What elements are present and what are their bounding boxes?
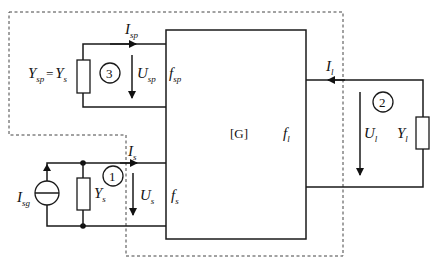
block-label: [G] (230, 126, 248, 141)
port-label-fs: fs (171, 187, 179, 206)
port-number-1: 1 (109, 169, 116, 184)
voltage-label-usp: Usp (137, 65, 156, 84)
resistor-yl (416, 117, 429, 149)
admittance-label-yl: Yl (397, 125, 408, 144)
current-label-is: Is (127, 143, 137, 162)
port-number-3: 3 (106, 66, 113, 81)
port-label-fl: fl (283, 125, 290, 144)
port-3-spare: 3 Isp Usp fsp Ysp=Ys (28, 21, 182, 107)
source-arrow-icon (43, 164, 51, 171)
current-label-il: Il (325, 58, 334, 77)
port-2-load: 2 Il Ul Yl fl (283, 58, 429, 187)
voltage-label-ul: Ul (364, 125, 378, 144)
current-label-isp: Isp (124, 21, 139, 40)
resistor-ys (77, 178, 90, 210)
admittance-eq-label: Ysp=Ys (28, 65, 67, 84)
resistor-ysp (77, 60, 90, 93)
circuit-diagram: [G] 3 Isp Usp fsp Ysp=Ys 1 Is U (0, 0, 438, 267)
voltage-label-us: Us (140, 187, 155, 206)
admittance-label-ys: Ys (94, 185, 106, 204)
port-number-2: 2 (379, 95, 386, 110)
dashed-boundary (9, 12, 343, 256)
port-label-fsp: fsp (169, 65, 182, 84)
source-label-isg: Isg (16, 189, 31, 208)
port-1-source: 1 Is Us fs Ys Isg (16, 143, 179, 229)
